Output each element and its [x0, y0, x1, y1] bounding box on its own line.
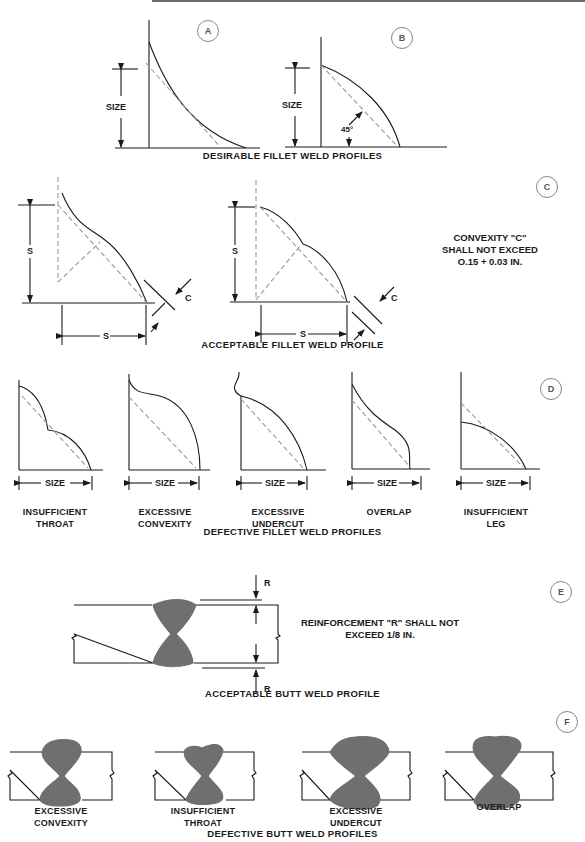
figure-a-fillet-concave	[112, 20, 260, 148]
caption-acceptable-butt: ACCEPTABLE BUTT WELD PROFILE	[0, 688, 585, 699]
f2-label-line-1: INSUFFICIENT	[158, 805, 248, 817]
figure-d5-insufficient-leg	[461, 372, 540, 490]
d1-label-line-1: INSUFFICIENT	[10, 506, 100, 518]
size-label-a: SIZE	[105, 102, 127, 112]
size-label-b: SIZE	[281, 100, 303, 110]
reinforcement-note-line-2: EXCEED 1/8 IN.	[280, 629, 480, 641]
badge-a: A	[197, 20, 219, 42]
convexity-note: CONVEXITY "C" SHALL NOT EXCEED O.15 + 0.…	[430, 232, 550, 268]
d2-label-line-1: EXCESSIVE	[120, 506, 210, 518]
d4-size: SIZE	[376, 478, 398, 488]
badge-b: B	[391, 27, 413, 49]
d5-size: SIZE	[485, 478, 507, 488]
figure-d3-excessive-undercut	[234, 372, 326, 490]
angle-label-b: 45°	[340, 125, 354, 135]
convexity-note-line-2: SHALL NOT EXCEED	[430, 244, 550, 256]
figure-c-right-convex	[228, 180, 394, 343]
f1-label: EXCESSIVE CONVEXITY	[16, 805, 106, 829]
dim-s-right-horizontal: S	[299, 329, 307, 339]
convexity-note-line-3: O.15 + 0.03 IN.	[430, 256, 550, 268]
figure-f4-overlap	[443, 736, 555, 809]
d3-size: SIZE	[264, 478, 286, 488]
dim-r-top: R	[263, 578, 272, 588]
dim-c-left: C	[184, 293, 193, 303]
dim-s-left-vertical: S	[26, 246, 34, 256]
caption-desirable-fillet: DESIRABLE FILLET WELD PROFILES	[0, 150, 585, 161]
d1-size: SIZE	[44, 478, 66, 488]
reinforcement-note: REINFORCEMENT "R" SHALL NOT EXCEED 1/8 I…	[280, 617, 480, 641]
figure-b-fillet-convex	[285, 37, 447, 147]
f2-label: INSUFFICIENT THROAT	[158, 805, 248, 829]
f1-label-line-1: EXCESSIVE	[16, 805, 106, 817]
f3-label: EXCESSIVE UNDERCUT	[311, 805, 401, 829]
dim-s-right-vertical: S	[231, 246, 239, 256]
figure-c-left-concave	[18, 177, 191, 345]
caption-defective-butt: DEFECTIVE BUTT WELD PROFILES	[0, 828, 585, 839]
d3-label-line-1: EXCESSIVE	[233, 506, 323, 518]
d2-size: SIZE	[154, 478, 176, 488]
badge-c: C	[536, 176, 558, 198]
d5-label-line-1: INSUFFICIENT	[451, 506, 541, 518]
badge-f: F	[556, 711, 578, 733]
figure-d1-insufficient-throat	[19, 380, 103, 490]
badge-e: E	[550, 581, 572, 603]
convexity-note-line-1: CONVEXITY "C"	[430, 232, 550, 244]
figure-e-acceptable-butt	[72, 575, 280, 694]
figure-d2-excessive-convexity	[129, 374, 210, 490]
figure-f2-insufficient-throat	[153, 745, 256, 805]
figure-f3-excessive-undercut	[300, 737, 412, 810]
d4-label-line-1: OVERLAP	[344, 506, 434, 518]
f4-label: OVERLAP	[454, 801, 544, 813]
d4-label: OVERLAP	[344, 506, 434, 518]
caption-defective-fillet: DEFECTIVE FILLET WELD PROFILES	[0, 526, 585, 537]
caption-acceptable-fillet: ACCEPTABLE FILLET WELD PROFILE	[0, 339, 585, 350]
badge-d: D	[540, 378, 562, 400]
f4-label-line-1: OVERLAP	[454, 801, 544, 813]
reinforcement-note-line-1: REINFORCEMENT "R" SHALL NOT	[280, 617, 480, 629]
f3-label-line-1: EXCESSIVE	[311, 805, 401, 817]
weld-profiles-diagram	[0, 0, 585, 842]
figure-f1-excessive-convexity	[8, 740, 114, 807]
figure-d4-overlap	[352, 372, 430, 490]
dim-c-right: C	[390, 293, 399, 303]
